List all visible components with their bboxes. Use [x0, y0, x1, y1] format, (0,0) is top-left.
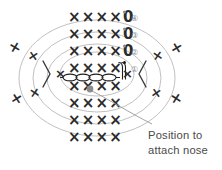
row-4-number: ④ — [131, 14, 138, 23]
outer-stitch-l2: × — [27, 47, 40, 64]
table-row: ×××× — [68, 94, 123, 112]
table-row: ××××0 ③ — [68, 25, 138, 43]
table-row: ×××× — [68, 111, 123, 129]
chart-canvas: ××××0 ④ ××××0 ③ ××××0 ② ×××× — [0, 0, 222, 170]
row-4-end-dot — [123, 11, 126, 14]
row-2-number: ② — [131, 48, 138, 57]
row-2-end-dot — [123, 45, 126, 48]
row-1-end-dot — [123, 61, 126, 64]
outer-stitch-l1: × — [7, 38, 22, 56]
table-row: ××××0 ④ — [68, 8, 138, 26]
callout-line-2: attach nose — [148, 144, 208, 156]
chevron-left-mark-icon — [139, 61, 146, 87]
table-row: ×××× — [68, 77, 123, 95]
outer-stitch-l3: × — [9, 89, 24, 107]
outer-stitch-r4: × — [150, 84, 163, 101]
callout-line-1: Position to — [148, 129, 202, 141]
row-a-stitches: ×××× — [68, 111, 123, 129]
outer-stitch-r1: × — [169, 38, 184, 56]
table-row: ×××× — [68, 128, 123, 146]
callout-label: Position to attach nose — [148, 129, 208, 156]
outer-stitch-r2: × — [151, 47, 164, 64]
row-b-stitches: ×××× — [68, 94, 123, 112]
outer-stitch-l4: × — [28, 84, 41, 101]
chevron-right-mark-icon — [43, 61, 50, 87]
crochet-chart-diagram: ××××0 ④ ××××0 ③ ××××0 ② ×××× — [0, 0, 222, 170]
table-row: ××××0 ② — [68, 42, 138, 60]
outer-stitch-r5: × — [122, 66, 133, 81]
row-3-number: ③ — [131, 31, 138, 40]
outer-stitch-r3: × — [168, 89, 183, 107]
row-c-stitches: ×××× — [68, 77, 123, 95]
row-3-end-dot — [123, 28, 126, 31]
outer-stitch-l5: × — [55, 66, 66, 81]
nose-position-marker[interactable] — [87, 86, 94, 93]
row-0-stitches: ×××× — [68, 128, 123, 146]
